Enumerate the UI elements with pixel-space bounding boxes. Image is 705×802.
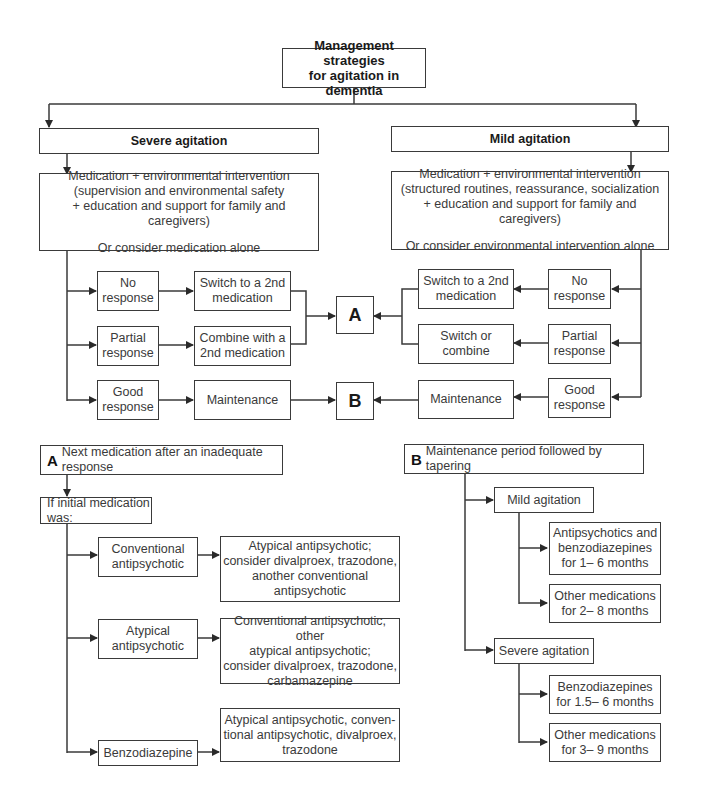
mild-intervention-box: Medication + environmental intervention … [391, 171, 669, 250]
label: Other medications [554, 728, 655, 743]
label: Atypical antipsychotic, conven- [225, 713, 396, 728]
node-b: B [336, 382, 374, 420]
mild-other-medications-duration-box: Other medications for 2– 8 months [549, 584, 661, 623]
mild-intervention-line-3: + education and support for family and c… [392, 197, 668, 227]
mild-intervention-line-1: Medication + environmental intervention [419, 167, 640, 182]
severe-intervention-box: Medication + environmental intervention … [39, 173, 319, 251]
initial-conventional-box: Conventional antipsychotic [98, 537, 198, 577]
mild-no-response-action-box: Switch to a 2nd medication [418, 269, 514, 309]
mild-maintenance-box: Maintenance [418, 380, 514, 419]
label: Other medications [554, 589, 655, 604]
panel-b-mild-agitation-box: Mild agitation [494, 487, 594, 513]
label: tional antipsychotic, divalproex, [223, 728, 396, 743]
label: Mild agitation [507, 493, 581, 508]
label: response [554, 344, 605, 359]
initial-atypical-box: Atypical antipsychotic [98, 619, 198, 659]
label: Severe agitation [499, 644, 589, 659]
label: trazodone [282, 743, 338, 758]
node-a-label: A [349, 308, 362, 323]
label: for 3– 9 months [562, 743, 649, 758]
mild-partial-response-box: Partial response [548, 324, 611, 364]
label: Combine with a [199, 331, 285, 346]
panel-b-severe-agitation-box: Severe agitation [494, 638, 594, 664]
label: medication [436, 289, 496, 304]
panel-a-condition-box: If initial medication was: [40, 497, 152, 524]
label: Atypical antipsychotic; [249, 539, 372, 554]
panel-a-title: Next medication after an inadequate resp… [62, 445, 282, 475]
mild-antipsychotics-duration-box: Antipsychotics and benzodiazepines for 1… [549, 522, 661, 575]
severe-intervention-line-2: (supervision and environmental safety [74, 184, 285, 199]
panel-a-header: A Next medication after an inadequate re… [40, 445, 283, 475]
panel-a-condition: If initial medication was: [47, 496, 151, 526]
label: benzodiazepines [558, 541, 652, 556]
severe-agitation-box: Severe agitation [39, 128, 319, 154]
label: response [102, 346, 153, 361]
label: No [120, 276, 136, 291]
label: Switch or [440, 329, 491, 344]
severe-agitation-label: Severe agitation [131, 134, 228, 149]
label: No [572, 274, 588, 289]
panel-b-header: B Maintenance period followed by taperin… [404, 444, 644, 474]
label: response [102, 291, 153, 306]
label: antipsychotic [112, 639, 184, 654]
label: antipsychotic [112, 557, 184, 572]
label: Partial [110, 331, 145, 346]
severe-no-response-action-box: Switch to a 2nd medication [194, 271, 291, 311]
label: another conventional [252, 569, 368, 584]
label: Good [564, 383, 595, 398]
mild-agitation-box: Mild agitation [391, 126, 669, 152]
label: atypical antipsychotic; [249, 644, 371, 659]
title-line-2: for agitation in dementia [283, 68, 425, 98]
label: Benzodiazepine [104, 746, 193, 761]
panel-b-title: Maintenance period followed by tapering [426, 444, 643, 474]
mild-intervention-alt: Or consider environmental intervention a… [406, 239, 655, 254]
label: antipsychotic [274, 584, 346, 599]
next-after-benzodiazepine-box: Atypical antipsychotic, conven- tional a… [220, 708, 400, 762]
node-a: A [336, 296, 374, 334]
label: Maintenance [430, 392, 502, 407]
mild-good-response-box: Good response [548, 378, 611, 418]
label: Maintenance [207, 393, 279, 408]
label: medication [212, 291, 272, 306]
next-after-atypical-box: Conventional antipsychotic, other atypic… [220, 618, 400, 684]
mild-agitation-label: Mild agitation [490, 132, 571, 147]
severe-intervention-line-3: + education and support for family and c… [40, 199, 318, 229]
severe-no-response-box: No response [97, 271, 159, 311]
label: for 1.5– 6 months [556, 695, 653, 710]
panel-b-letter: B [411, 452, 422, 467]
severe-intervention-line-1: Medication + environmental intervention [68, 169, 289, 184]
severe-good-response-box: Good response [97, 380, 159, 420]
label: for 1– 6 months [562, 556, 649, 571]
label: response [554, 398, 605, 413]
severe-maintenance-box: Maintenance [194, 380, 291, 420]
mild-partial-response-action-box: Switch or combine [418, 324, 514, 364]
label: for 2– 8 months [562, 604, 649, 619]
label: Switch to a 2nd [200, 276, 285, 291]
severe-intervention-alt: Or consider medication alone [98, 241, 261, 256]
next-after-conventional-box: Atypical antipsychotic; consider divalpr… [220, 536, 400, 602]
label: response [102, 400, 153, 415]
mild-intervention-line-2: (structured routines, reassurance, socia… [401, 182, 659, 197]
label: consider divalproex, trazodone, [223, 659, 397, 674]
mild-no-response-box: No response [548, 269, 611, 309]
label: combine [442, 344, 489, 359]
label: Conventional [112, 542, 185, 557]
severe-partial-response-box: Partial response [97, 326, 159, 366]
label: Good [113, 385, 144, 400]
node-b-label: B [349, 394, 362, 409]
label: carbamazepine [267, 674, 352, 689]
label: Benzodiazepines [557, 680, 652, 695]
severe-benzodiazepines-duration-box: Benzodiazepines for 1.5– 6 months [549, 675, 661, 714]
label: Antipsychotics and [553, 526, 657, 541]
label: 2nd medication [200, 346, 285, 361]
initial-benzodiazepine-box: Benzodiazepine [98, 740, 198, 766]
label: Switch to a 2nd [423, 274, 508, 289]
label: Conventional antipsychotic, other [221, 614, 399, 644]
label: consider divalproex, trazodone, [223, 554, 397, 569]
severe-other-medications-duration-box: Other medications for 3– 9 months [549, 723, 661, 762]
title-line-1: Management strategies [283, 38, 425, 68]
title-box: Management strategies for agitation in d… [282, 48, 426, 88]
label: response [554, 289, 605, 304]
label: Atypical [126, 624, 170, 639]
panel-a-letter: A [47, 453, 58, 468]
